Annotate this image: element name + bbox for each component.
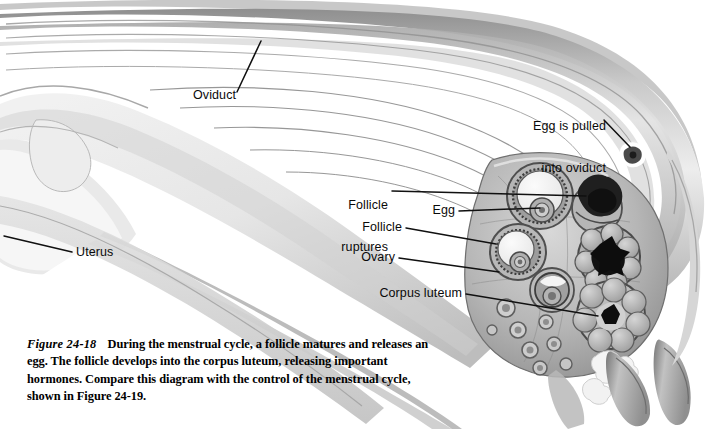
label-egg-pulled-into-oviduct: Egg is pulled into oviduct: [466, 91, 606, 203]
label-corpus-luteum: Corpus luteum: [350, 287, 462, 301]
label-egg: Egg: [395, 204, 455, 218]
label-oviduct: Oviduct: [193, 89, 236, 103]
figure-caption: Figure 24-18During the menstrual cycle, …: [27, 336, 442, 405]
label-egg-pulled-line2: into oviduct: [466, 161, 606, 175]
figure-number: Figure 24-18: [27, 337, 97, 351]
label-egg-pulled-line1: Egg is pulled: [466, 119, 606, 133]
label-ovary: Ovary: [330, 251, 395, 265]
label-follicle: Follicle: [322, 221, 402, 235]
label-uterus: Uterus: [76, 246, 113, 260]
figure-24-18: Oviduct Uterus Egg is pulled into oviduc…: [0, 0, 706, 429]
page-bleed-through: [30, 414, 450, 424]
label-follicle-ruptures-line1: Follicle: [268, 198, 388, 212]
released-egg: [618, 140, 646, 168]
